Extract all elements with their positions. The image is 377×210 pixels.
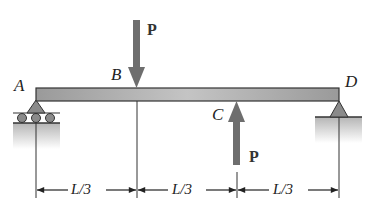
dimension-label-cd: L/3 bbox=[271, 182, 295, 197]
point-label-b: B bbox=[111, 66, 121, 83]
dimension-label-bc: L/3 bbox=[170, 182, 194, 197]
load-arrow-up-c bbox=[228, 101, 245, 165]
beam bbox=[36, 88, 339, 101]
dimension-label-ab: L/3 bbox=[69, 182, 93, 197]
beam-diagram bbox=[0, 0, 377, 210]
load-label-b: P bbox=[147, 22, 157, 38]
point-label-c: C bbox=[212, 106, 223, 123]
point-label-a: A bbox=[14, 77, 24, 94]
load-label-c: P bbox=[249, 149, 259, 165]
load-arrow-down-b bbox=[128, 20, 145, 88]
point-label-d: D bbox=[345, 73, 357, 90]
